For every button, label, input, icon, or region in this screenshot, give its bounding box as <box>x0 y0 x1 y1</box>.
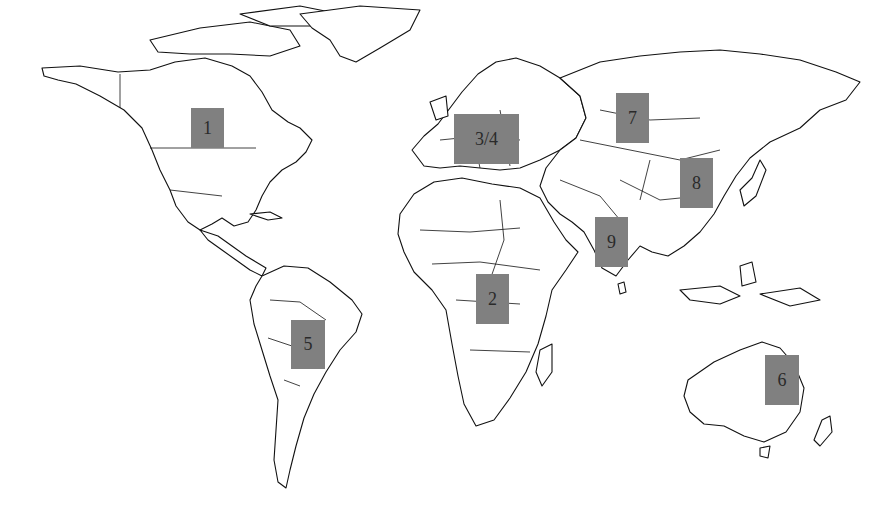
region-marker-7: 7 <box>616 93 649 143</box>
region-marker-6: 6 <box>765 355 799 405</box>
marker-label: 1 <box>203 118 212 139</box>
marker-label: 2 <box>488 289 497 310</box>
marker-label: 9 <box>607 232 616 253</box>
region-marker-9: 9 <box>595 217 628 267</box>
marker-label: 8 <box>692 173 701 194</box>
south-america <box>250 266 362 488</box>
world-map <box>0 0 876 520</box>
region-marker-8: 8 <box>680 158 713 208</box>
marker-label: 6 <box>778 370 787 391</box>
marker-label: 3/4 <box>475 129 498 150</box>
region-marker-3-4: 3/4 <box>454 114 519 164</box>
region-marker-1: 1 <box>191 108 224 148</box>
region-marker-2: 2 <box>476 274 509 324</box>
greenland <box>300 6 420 62</box>
marker-label: 5 <box>304 334 313 355</box>
north-america <box>42 58 312 230</box>
marker-label: 7 <box>628 108 637 129</box>
region-marker-5: 5 <box>291 320 325 369</box>
